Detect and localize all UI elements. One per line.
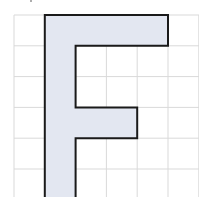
grid-figure	[0, 0, 199, 197]
stray-dot	[30, 0, 32, 2]
letter-f-diagram	[0, 0, 199, 197]
